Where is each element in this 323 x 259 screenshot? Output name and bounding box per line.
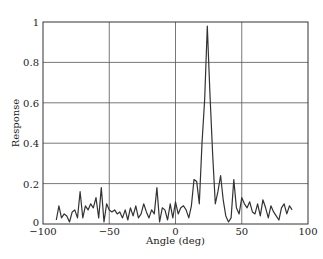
x-tick-label: 50 xyxy=(235,226,248,237)
line-chart: −100−50050100 00.20.40.60.81 Angle (deg)… xyxy=(0,0,323,259)
x-tick-label: −50 xyxy=(99,226,120,237)
y-tick-label: 0.4 xyxy=(23,138,39,149)
x-axis-label: Angle (deg) xyxy=(145,235,205,246)
response-line xyxy=(56,26,292,222)
x-tick-label: 100 xyxy=(298,226,317,237)
y-tick-label: 0.8 xyxy=(23,57,39,68)
grid-lines xyxy=(43,22,308,224)
y-tick-label: 0.2 xyxy=(23,179,39,190)
y-tick-label: 0.6 xyxy=(23,98,39,109)
y-axis-label: Response xyxy=(10,99,21,148)
y-tick-label: 0 xyxy=(33,217,39,228)
y-tick-label: 1 xyxy=(33,17,39,28)
y-axis-ticks: 00.20.40.60.81 xyxy=(23,17,39,228)
data-series xyxy=(56,26,292,222)
